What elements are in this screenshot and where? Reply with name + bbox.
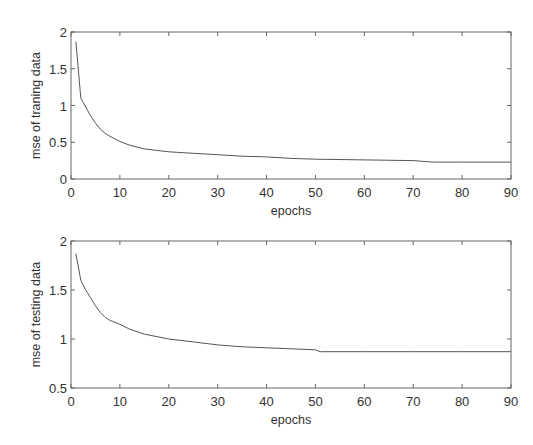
y-tick-label: 2 xyxy=(60,25,67,40)
x-tick-label: 60 xyxy=(357,185,371,200)
x-tick-label: 0 xyxy=(67,394,74,409)
x-tick-label: 80 xyxy=(455,185,469,200)
y-tick-label: 1 xyxy=(60,332,67,347)
x-axis-label: epochs xyxy=(271,204,311,218)
y-axis-label: mse of testing data xyxy=(29,262,43,368)
x-tick-label: 80 xyxy=(455,394,469,409)
x-tick-label: 50 xyxy=(308,394,322,409)
x-tick-label: 20 xyxy=(162,394,176,409)
y-tick-label: 0 xyxy=(60,172,67,187)
x-tick-label: 70 xyxy=(406,394,420,409)
y-tick-label: 1.5 xyxy=(49,283,67,298)
x-tick-label: 70 xyxy=(406,185,420,200)
x-tick-label: 90 xyxy=(504,185,518,200)
x-tick-label: 10 xyxy=(113,185,127,200)
x-tick-label: 40 xyxy=(259,185,273,200)
y-tick-label: 1 xyxy=(60,99,67,114)
plot-frame xyxy=(71,241,511,388)
x-tick-label: 90 xyxy=(504,394,518,409)
data-line xyxy=(76,254,511,352)
x-tick-label: 30 xyxy=(210,394,224,409)
y-tick-label: 1.5 xyxy=(49,62,67,77)
x-tick-label: 0 xyxy=(67,185,74,200)
x-tick-label: 10 xyxy=(113,394,127,409)
y-tick-label: 0.5 xyxy=(49,381,67,396)
x-tick-label: 60 xyxy=(357,394,371,409)
x-axis-label: epochs xyxy=(271,413,311,427)
plot-frame xyxy=(71,32,511,179)
figure: 010203040506070809000.511.52epochsmse of… xyxy=(0,0,533,445)
x-tick-label: 40 xyxy=(259,394,273,409)
x-tick-label: 50 xyxy=(308,185,322,200)
y-axis-label: mse of traning data xyxy=(29,52,43,159)
y-tick-label: 0.5 xyxy=(49,135,67,150)
y-tick-label: 2 xyxy=(60,234,67,249)
testing-mse-chart: 01020304050607080900.511.52epochsmse of … xyxy=(29,234,518,427)
x-tick-label: 20 xyxy=(162,185,176,200)
training-mse-chart: 010203040506070809000.511.52epochsmse of… xyxy=(29,25,518,218)
x-tick-label: 30 xyxy=(210,185,224,200)
data-line xyxy=(76,42,511,163)
